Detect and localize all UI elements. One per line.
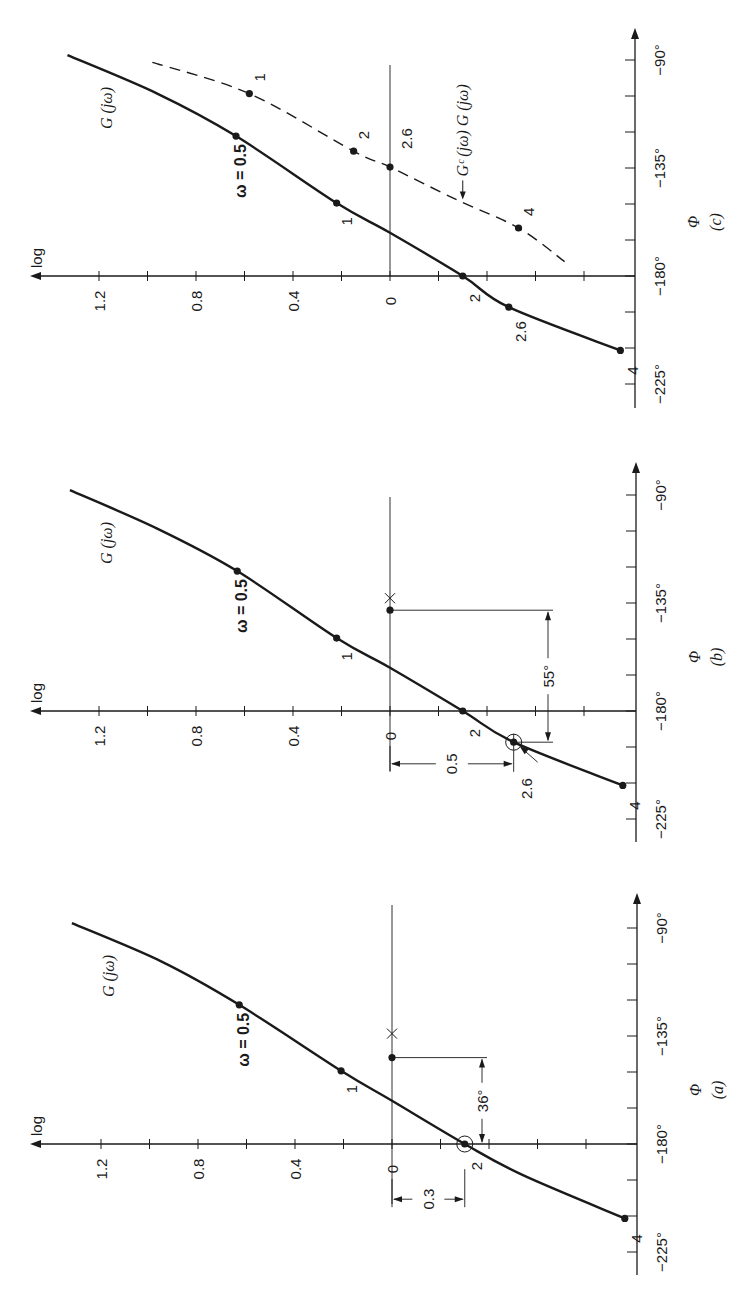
frequency-point <box>617 347 624 354</box>
frequency-point <box>333 634 340 641</box>
frequency-point <box>350 148 357 155</box>
magnitude-tick-label: 0.8 <box>188 726 205 747</box>
panel-a: log1.20.80.40−225°−180°−135°−90°Φ(a)ω = … <box>28 893 727 1275</box>
frequency-point <box>386 163 393 170</box>
phase-tick-label: −90° <box>652 479 669 510</box>
phase-tick-label: −180° <box>651 256 668 296</box>
omega-label: 2 <box>468 1162 485 1170</box>
magnitude-tick-label: 0.8 <box>190 1159 207 1180</box>
omega-label-compensated: 4 <box>520 208 537 216</box>
omega-label-compensated: 2.6 <box>398 128 415 149</box>
magnitude-tick-label: 0 <box>382 297 399 305</box>
nichols-chart-figure: log1.20.80.40−225°−180°−135°−90°Φ(c)ω = … <box>0 0 745 1301</box>
frequency-point <box>459 707 466 714</box>
magnitude-tick-label: 1.2 <box>91 726 108 747</box>
omega-label: 1 <box>343 1085 360 1093</box>
phase-tick-label: −225° <box>653 1232 670 1272</box>
magnitude-tick-label: 0.4 <box>285 726 302 747</box>
dimension-arrow-icon <box>391 761 400 767</box>
phase-tick-label: −225° <box>651 364 668 404</box>
phase-axis-arrow-icon <box>631 28 639 39</box>
dimension-arrow-icon <box>504 761 513 767</box>
omega-label-compensated: 1 <box>251 73 268 81</box>
omega-label-compensated: 2 <box>355 131 372 139</box>
phase-tick-label: −135° <box>652 583 669 623</box>
gain-margin-label: 0.5 <box>443 753 460 774</box>
frequency-point <box>515 224 522 231</box>
dimension-arrow-icon <box>455 1196 464 1202</box>
plant-curve <box>70 490 623 785</box>
magnitude-axis-arrow-icon <box>30 272 41 280</box>
phase-axis-arrow-icon <box>633 893 641 904</box>
compensated-curve <box>152 62 564 261</box>
plant-curve <box>72 923 625 1218</box>
phase-margin-label: 36° <box>474 1089 491 1112</box>
omega-label: 2 <box>466 729 483 737</box>
omega-label: 4 <box>628 1234 645 1242</box>
frequency-point <box>234 567 241 574</box>
magnitude-tick-label: 0.4 <box>285 291 302 312</box>
frequency-point <box>333 199 340 206</box>
panel-c: log1.20.80.40−225°−180°−135°−90°Φ(c)ω = … <box>28 28 725 408</box>
dimension-arrow-icon <box>479 1059 485 1068</box>
frequency-point <box>461 1140 468 1147</box>
panel-caption: (b) <box>708 648 726 667</box>
omega-label: 4 <box>626 801 643 809</box>
magnitude-axis-arrow-icon <box>30 707 41 715</box>
phase-axis-label: Φ <box>686 651 703 663</box>
dimension-arrow-icon <box>545 611 551 620</box>
curve-label: G (jω) <box>100 955 118 997</box>
phase-tick-label: −180° <box>652 691 669 731</box>
frequency-point <box>232 132 239 139</box>
phase-margin-label: 55° <box>540 665 557 688</box>
curve-label: G (jω) <box>98 522 116 564</box>
phase-axis-label: Φ <box>685 216 702 228</box>
dimension-arrow-icon <box>479 1134 485 1143</box>
dimension-arrow-icon <box>545 732 551 741</box>
phase-tick-label: −90° <box>651 44 668 75</box>
magnitude-axis-label: log <box>28 248 45 268</box>
omega-label: 1 <box>338 652 355 660</box>
magnitude-tick-label: 0.8 <box>188 291 205 312</box>
phase-tick-label: −135° <box>651 148 668 188</box>
gain-margin-label: 0.3 <box>420 1189 437 1210</box>
omega-label: ω = 0.5 <box>233 579 250 633</box>
omega-label: ω = 0.5 <box>232 144 249 198</box>
frequency-point <box>619 782 626 789</box>
compensated-curve-label: Gᶜ (jω) G (jω) <box>454 84 472 176</box>
frequency-point <box>621 1215 628 1222</box>
phase-tick-label: −135° <box>653 1016 670 1056</box>
omega-label: 2.6 <box>512 321 529 342</box>
magnitude-tick-label: 1.2 <box>91 291 108 312</box>
label-arrow-head-icon <box>460 191 466 199</box>
phase-tick-label: −225° <box>652 799 669 839</box>
curve-label: G (jω) <box>98 87 116 129</box>
omega-label: 4 <box>624 366 641 374</box>
magnitude-axis-arrow-icon <box>30 1140 41 1148</box>
dimension-arrow-icon <box>393 1196 402 1202</box>
omega-label: 2.6 <box>518 778 535 799</box>
panel-caption: (c) <box>707 213 725 231</box>
phase-tick-label: −90° <box>653 912 670 943</box>
chart-canvas: log1.20.80.40−225°−180°−135°−90°Φ(c)ω = … <box>0 0 745 1301</box>
phase-axis-arrow-icon <box>632 462 640 473</box>
magnitude-tick-label: 0.4 <box>287 1159 304 1180</box>
panel-b: log1.20.80.40−225°−180°−135°−90°Φ(b)ω = … <box>28 462 726 842</box>
omega-label: ω = 0.5 <box>235 1013 252 1067</box>
frequency-point <box>337 1067 344 1074</box>
magnitude-axis-label: log <box>28 683 45 703</box>
frequency-point <box>459 272 466 279</box>
omega-label: 1 <box>338 217 355 225</box>
panel-caption: (a) <box>709 1081 727 1100</box>
magnitude-axis-label: log <box>28 1116 45 1136</box>
magnitude-tick-label: 1.2 <box>93 1159 110 1180</box>
frequency-point <box>505 304 512 311</box>
phase-axis-label: Φ <box>687 1084 704 1096</box>
phase-tick-label: −180° <box>653 1124 670 1164</box>
frequency-point <box>246 90 253 97</box>
plant-curve <box>67 55 620 350</box>
omega-label: 2 <box>466 294 483 302</box>
frequency-point <box>236 1001 243 1008</box>
